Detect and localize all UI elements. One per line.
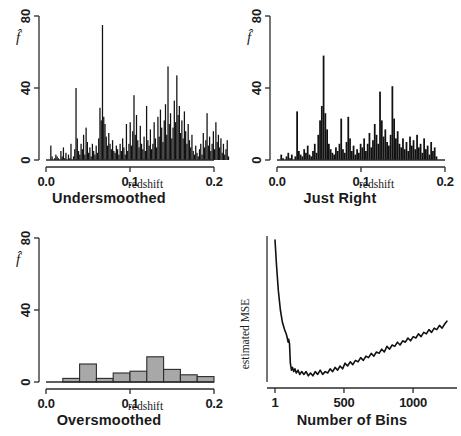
histogram-bar xyxy=(137,140,138,160)
histogram-bar xyxy=(296,111,298,160)
y-axis-title: f̂ xyxy=(247,29,254,45)
histogram-bar xyxy=(414,149,416,160)
histogram-bar xyxy=(358,153,360,160)
x-tick-label-mse: 1 xyxy=(272,395,279,410)
histogram-bar xyxy=(84,155,85,160)
histogram-bar xyxy=(219,147,220,160)
histogram-bar xyxy=(365,151,367,160)
x-tick-label: 0.0 xyxy=(37,174,54,189)
histogram-bar xyxy=(333,155,335,160)
histogram-bar xyxy=(210,151,211,160)
histogram-bar xyxy=(176,75,177,160)
histogram-bar xyxy=(191,135,192,160)
histogram-bar xyxy=(298,151,300,160)
histogram-bar xyxy=(60,151,61,160)
histogram-bar xyxy=(346,142,348,160)
histogram-bar xyxy=(147,357,164,382)
histogram-bar xyxy=(55,155,56,160)
histogram-bar xyxy=(89,147,90,160)
histogram-bar xyxy=(135,135,136,160)
x-tick-label-mse: 1000 xyxy=(399,395,427,410)
histogram-bar xyxy=(121,151,122,160)
histogram-bar xyxy=(122,138,123,160)
x-tick-label-mse: 500 xyxy=(334,395,355,410)
histogram-bar xyxy=(413,140,415,160)
histogram-bar xyxy=(80,144,81,160)
axes-mse: 15001000 xyxy=(267,236,457,410)
x-tick-label: 0.2 xyxy=(205,174,222,189)
histogram-bar xyxy=(180,375,197,382)
histogram-bar xyxy=(407,151,409,160)
histogram-bar xyxy=(150,129,151,160)
histogram-bar xyxy=(193,151,194,160)
histogram-bar xyxy=(305,153,307,160)
histogram-bar xyxy=(328,144,330,160)
histogram-bar xyxy=(220,138,221,160)
histogram-bar xyxy=(188,124,189,160)
histogram-bar xyxy=(204,147,205,160)
histogram-bar xyxy=(384,129,386,160)
histogram-bars xyxy=(277,56,445,160)
histogram-bar xyxy=(393,119,395,160)
axes-undersmoothed: 040800.00.10.2 xyxy=(18,9,223,189)
histogram-bar xyxy=(102,25,103,160)
histogram-bar xyxy=(142,149,143,160)
histogram-bar xyxy=(383,137,385,160)
histogram-bar xyxy=(104,124,105,160)
histogram-bar xyxy=(197,377,214,382)
histogram-bar xyxy=(96,146,97,160)
histogram-bar xyxy=(183,138,184,160)
histogram-bar xyxy=(159,137,160,160)
histogram-bar xyxy=(145,151,146,160)
histogram-bar xyxy=(427,146,429,160)
histogram-bar xyxy=(316,153,318,160)
histogram-bar xyxy=(309,155,311,160)
y-tick-label: 40 xyxy=(18,81,33,95)
histogram-bar xyxy=(432,151,434,160)
histogram-bar xyxy=(209,137,210,160)
x-tick-label: 0.0 xyxy=(37,396,54,411)
histogram-bar xyxy=(156,147,157,160)
histogram-bar xyxy=(152,144,153,160)
histogram-bar xyxy=(367,144,369,160)
histogram-bar xyxy=(189,140,190,160)
histogram-bar xyxy=(79,155,80,160)
histogram-bar xyxy=(99,108,100,160)
x-axis-title-oversmoothed: redshift xyxy=(128,400,163,412)
histogram-bar xyxy=(93,151,94,160)
y-tick-label: 40 xyxy=(18,303,33,317)
panel-title-oversmoothed: Oversmoothed xyxy=(0,412,224,428)
histogram-bar xyxy=(120,144,121,160)
histogram-bar xyxy=(362,147,364,160)
histogram-bar xyxy=(370,147,372,160)
y-axis-title-mse: estimated MSE xyxy=(239,299,251,370)
histogram-bar xyxy=(397,131,399,160)
histogram-bar xyxy=(205,140,206,160)
histogram-bar xyxy=(130,371,147,382)
y-tick-label: 0 xyxy=(18,156,33,163)
histogram-bar xyxy=(386,142,388,160)
histogram-bar xyxy=(195,146,196,160)
histogram-bar xyxy=(118,155,119,160)
histogram-bar xyxy=(227,140,228,160)
histogram-bar xyxy=(379,92,381,160)
histogram-bar xyxy=(324,113,326,160)
x-axis-title-just-right: redshift xyxy=(359,178,394,190)
histogram-bar xyxy=(222,153,223,160)
histogram-bar xyxy=(161,128,162,160)
histogram-bar xyxy=(180,133,181,160)
histogram-bar xyxy=(347,117,349,160)
histogram-bar xyxy=(97,153,98,160)
histogram-bar xyxy=(125,155,126,160)
histogram-bar xyxy=(224,155,225,160)
histogram-bar xyxy=(416,135,418,160)
histogram-bar xyxy=(157,117,158,160)
histogram-bar xyxy=(63,147,64,160)
histogram-bar xyxy=(208,146,209,160)
histogram-bar xyxy=(400,147,402,160)
histogram-bar xyxy=(65,153,66,160)
histogram-bar xyxy=(117,149,118,160)
histogram-bar xyxy=(420,144,422,160)
mse-line xyxy=(275,240,447,376)
histogram-bar xyxy=(344,153,346,160)
